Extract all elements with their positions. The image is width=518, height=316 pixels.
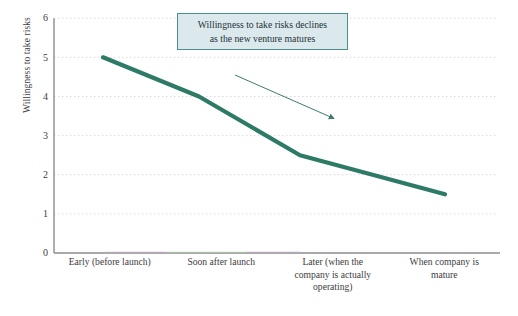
y-tick-5: 5 [30,53,48,63]
data-series-line [103,57,445,194]
x-tick-label-later-operating: Later (when the company is actually oper… [277,256,389,294]
chart-figure: Willingness to take risks 6 5 4 3 2 1 0 … [0,0,518,316]
annotation-text-line-1: Willingness to take risks declines [198,18,327,32]
x-tick-label-company-mature: When company is mature [389,256,501,294]
x-tick-label-line: When company is [391,256,499,269]
x-tick-label-line: Early (before launch) [56,256,164,269]
annotation-textbox: Willingness to take risks declines as th… [177,13,348,50]
y-tick-4: 4 [30,92,48,102]
x-tick-label-line: mature [391,269,499,282]
x-tick-label-line: operating) [279,281,387,294]
y-tick-2: 2 [30,170,48,180]
y-tick-1: 1 [30,209,48,219]
x-tick-label-line: Soon after launch [168,256,276,269]
y-tick-6: 6 [30,13,48,23]
x-tick-label-line: Later (when the [279,256,387,269]
x-tick-label-line: company is actually [279,269,387,282]
annotation-text-line-2: as the new venture matures [210,32,315,46]
x-axis-tick-labels: Early (before launch) Soon after launch … [54,256,500,294]
y-tick-3: 3 [30,131,48,141]
y-tick-0: 0 [30,248,48,258]
x-tick-label-soon-after-launch: Soon after launch [166,256,278,294]
x-tick-label-early: Early (before launch) [54,256,166,294]
